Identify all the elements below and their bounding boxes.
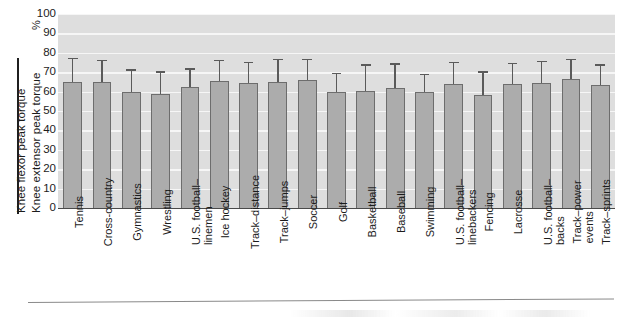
error-bar-cap bbox=[508, 63, 518, 64]
error-bar-cap bbox=[68, 58, 78, 59]
error-bar-cap bbox=[390, 63, 400, 64]
x-axis-tick-ice-hockey: Ice hockey bbox=[219, 186, 231, 239]
error-bar-cap bbox=[361, 64, 371, 65]
x-axis-tick-lacrosse: Lacrosse bbox=[512, 190, 524, 235]
y-axis-tick-70: 70 bbox=[43, 66, 56, 78]
error-bar-cap bbox=[566, 59, 576, 60]
error-bar bbox=[482, 71, 483, 95]
figure-bar-chart: Knee flexor peak torque Knee extensor pe… bbox=[0, 0, 623, 319]
y-axis-tick-0: 0 bbox=[50, 202, 56, 214]
error-bar-cap bbox=[126, 69, 136, 70]
error-bar bbox=[219, 60, 220, 81]
error-bar-cap bbox=[332, 73, 342, 74]
error-bar bbox=[453, 62, 454, 84]
error-bar-cap bbox=[156, 71, 166, 72]
x-axis-tick-track-power-events: Track–powerevents bbox=[571, 180, 595, 243]
x-axis-tick-track-jumps: Track–jumps bbox=[278, 181, 290, 244]
x-axis-tick-u-s-football-backs: U.S. football–backs bbox=[542, 179, 566, 245]
error-bar bbox=[248, 62, 249, 83]
error-bar-cap bbox=[420, 74, 430, 75]
error-bar bbox=[131, 69, 132, 91]
x-axis-tick-tennis: Tennis bbox=[73, 196, 85, 228]
error-bar bbox=[512, 63, 513, 84]
x-axis-tick-soccer: Soccer bbox=[307, 195, 319, 229]
error-bar bbox=[72, 58, 73, 82]
error-bar bbox=[365, 64, 366, 90]
bar-golf bbox=[327, 92, 346, 208]
error-bar-cap bbox=[244, 62, 254, 63]
error-bar bbox=[541, 61, 542, 83]
y-axis-tick-100: 100 bbox=[37, 8, 56, 20]
error-bar bbox=[336, 73, 337, 91]
error-bar bbox=[101, 60, 102, 82]
error-bar-cap bbox=[478, 71, 488, 72]
error-bar bbox=[600, 64, 601, 84]
x-axis-tick-basketball: Basketball bbox=[366, 187, 378, 238]
error-bar bbox=[189, 68, 190, 86]
error-bar bbox=[570, 59, 571, 79]
error-bar-cap bbox=[185, 68, 195, 69]
x-axis-tick-golf: Golf bbox=[337, 202, 349, 222]
error-bar-cap bbox=[449, 62, 459, 63]
x-axis-tick-track-sprints: Track–sprints bbox=[600, 179, 612, 245]
error-bar-cap bbox=[537, 61, 547, 62]
bar-soccer bbox=[298, 80, 317, 208]
gridline bbox=[58, 14, 615, 15]
y-axis-tick-50: 50 bbox=[43, 105, 56, 117]
y-axis-tick-30: 30 bbox=[43, 144, 56, 156]
y-axis-tick-90: 90 bbox=[43, 28, 56, 40]
error-bar-cap bbox=[97, 60, 107, 61]
plot-area bbox=[58, 14, 615, 208]
x-axis-tick-u-s-football-linebackers: U.S. football–linebackers bbox=[454, 179, 478, 245]
error-bar-cap bbox=[214, 60, 224, 61]
x-axis-tick-labels: TennisCross-countryGymnasticsWrestlingU.… bbox=[58, 210, 615, 305]
x-axis-tick-cross-country: Cross-country bbox=[102, 178, 114, 246]
error-bar bbox=[160, 71, 161, 93]
bar-tennis bbox=[63, 82, 82, 208]
error-bar bbox=[277, 59, 278, 82]
gridline bbox=[58, 33, 615, 34]
error-bar-cap bbox=[302, 59, 312, 60]
x-axis-tick-swimming: Swimming bbox=[424, 187, 436, 238]
x-axis-tick-gymnastics: Gymnastics bbox=[131, 183, 143, 240]
error-bar-cap bbox=[273, 59, 283, 60]
x-axis-tick-fencing: Fencing bbox=[483, 192, 495, 231]
y-axis-tick-labels: 1009080706050403020100 bbox=[30, 0, 56, 222]
x-axis-tick-u-s-football-linemen: U.S. football–linemen bbox=[190, 179, 214, 245]
x-axis-tick-wrestling: Wrestling bbox=[161, 189, 173, 235]
x-axis-tick-baseball: Baseball bbox=[395, 191, 407, 233]
x-axis-tick-track-distance: Track–distance bbox=[249, 175, 261, 249]
gridline bbox=[58, 53, 615, 54]
scan-artifact bbox=[290, 310, 590, 317]
y-axis-tick-80: 80 bbox=[43, 47, 56, 59]
y-axis-tick-10: 10 bbox=[43, 183, 56, 195]
y-axis-tick-40: 40 bbox=[43, 125, 56, 137]
error-bar bbox=[424, 74, 425, 91]
fraction-bar bbox=[17, 58, 19, 214]
error-bar-cap bbox=[595, 64, 605, 65]
y-axis-tick-60: 60 bbox=[43, 86, 56, 98]
error-bar bbox=[394, 63, 395, 87]
y-axis-tick-20: 20 bbox=[43, 163, 56, 175]
error-bar bbox=[307, 59, 308, 80]
